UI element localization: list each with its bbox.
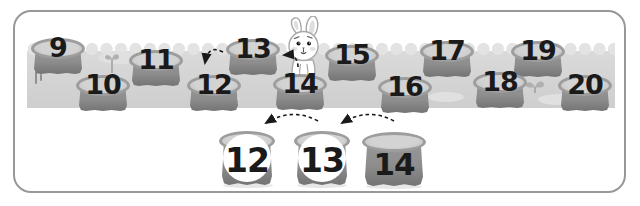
stump-number: 12: [187, 71, 241, 98]
stump-15: 15: [325, 45, 379, 81]
stump-number: 10: [76, 71, 130, 98]
ground-highlight: [428, 92, 464, 102]
stump-number: 11: [129, 46, 183, 73]
stump-11: 11: [129, 50, 183, 86]
answer-stump-12: 12: [219, 131, 275, 185]
stump-10: 10: [76, 75, 130, 111]
stump-16: 16: [378, 77, 432, 113]
sprout-icon: [525, 78, 545, 94]
answer-stump-14: 14: [362, 132, 426, 186]
stump-number: 15: [325, 41, 379, 68]
stump-number: 20: [558, 71, 612, 98]
stump-number: 13: [226, 35, 280, 62]
stump-number: 9: [31, 34, 85, 61]
answer-stump-13: 13: [294, 131, 350, 185]
answer-number: 13: [294, 144, 350, 177]
stump-number: 16: [378, 73, 432, 100]
bark-drip: [40, 74, 42, 81]
stump-14: 14: [273, 74, 327, 110]
answer-number: 12: [219, 144, 275, 177]
stump-18: 18: [473, 72, 527, 108]
stump-9: 9: [31, 38, 85, 74]
stump-number: 17: [420, 37, 474, 64]
answer-number: 14: [362, 149, 426, 180]
stump-12: 12: [187, 75, 241, 111]
stump-number: 14: [273, 70, 327, 97]
stump-20: 20: [558, 75, 612, 111]
stump-13: 13: [226, 39, 280, 75]
stump-17: 17: [420, 41, 474, 77]
worksheet-page: 9 11 13 15 17 19: [0, 0, 640, 206]
stump-number: 19: [511, 37, 565, 64]
stump-number: 18: [473, 68, 527, 95]
